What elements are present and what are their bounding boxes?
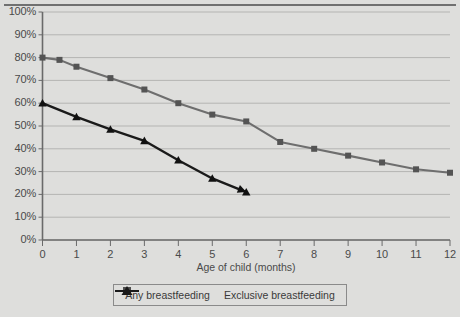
x-axis-tick-label: 5 bbox=[203, 248, 221, 260]
data-point-marker bbox=[379, 159, 385, 165]
x-axis-tick-label: 8 bbox=[305, 248, 323, 260]
data-point-marker bbox=[73, 64, 79, 70]
x-axis-tick-label: 0 bbox=[34, 248, 52, 260]
y-axis-tick-label: 50% bbox=[0, 119, 36, 131]
data-point-marker bbox=[56, 57, 62, 63]
x-axis-tick-label: 7 bbox=[271, 248, 289, 260]
data-point-marker bbox=[277, 139, 283, 145]
legend-key-triangle-icon bbox=[114, 285, 140, 297]
legend-item-exclusive-breastfeeding: Exclusive breastfeeding bbox=[224, 289, 335, 301]
x-axis-tick-label: 11 bbox=[407, 248, 425, 260]
x-axis-tick-label: 6 bbox=[237, 248, 255, 260]
chart-container: 0%10%20%30%40%50%60%70%80%90%100% 012345… bbox=[0, 0, 460, 317]
y-axis-tick-label: 10% bbox=[0, 210, 36, 222]
data-point-marker bbox=[175, 100, 181, 106]
y-axis-tick-label: 90% bbox=[0, 28, 36, 40]
y-axis-tick-label: 40% bbox=[0, 142, 36, 154]
data-point-marker bbox=[345, 153, 351, 159]
y-axis-tick-label: 30% bbox=[0, 165, 36, 177]
y-axis-tick-label: 70% bbox=[0, 73, 36, 85]
series-line-0 bbox=[43, 58, 451, 173]
data-point-marker bbox=[447, 170, 453, 176]
x-axis-tick-label: 1 bbox=[67, 248, 85, 260]
y-axis-tick-label: 60% bbox=[0, 96, 36, 108]
data-point-marker bbox=[413, 166, 419, 172]
data-point-marker bbox=[107, 75, 113, 81]
series-line-1 bbox=[43, 103, 247, 192]
y-axis-tick-label: 0% bbox=[0, 233, 36, 245]
legend-label-exclusive-breastfeeding: Exclusive breastfeeding bbox=[224, 289, 335, 301]
data-point-marker bbox=[209, 112, 215, 118]
y-axis-tick-label: 20% bbox=[0, 187, 36, 199]
data-point-marker bbox=[243, 118, 249, 124]
data-point-marker bbox=[141, 87, 147, 93]
data-point-marker bbox=[40, 55, 46, 61]
x-axis-tick-label: 10 bbox=[373, 248, 391, 260]
x-axis-tick-label: 4 bbox=[169, 248, 187, 260]
x-axis-tick-label: 9 bbox=[339, 248, 357, 260]
chart-legend: Any breastfeeding Exclusive breastfeedin… bbox=[113, 284, 347, 306]
data-point-marker bbox=[311, 146, 317, 152]
x-axis-tick-label: 2 bbox=[101, 248, 119, 260]
x-axis-title: Age of child (months) bbox=[146, 261, 346, 273]
y-axis-tick-label: 80% bbox=[0, 51, 36, 63]
x-axis-tick-label: 12 bbox=[441, 248, 459, 260]
x-axis-tick-label: 3 bbox=[135, 248, 153, 260]
y-axis-tick-label: 100% bbox=[0, 5, 36, 17]
